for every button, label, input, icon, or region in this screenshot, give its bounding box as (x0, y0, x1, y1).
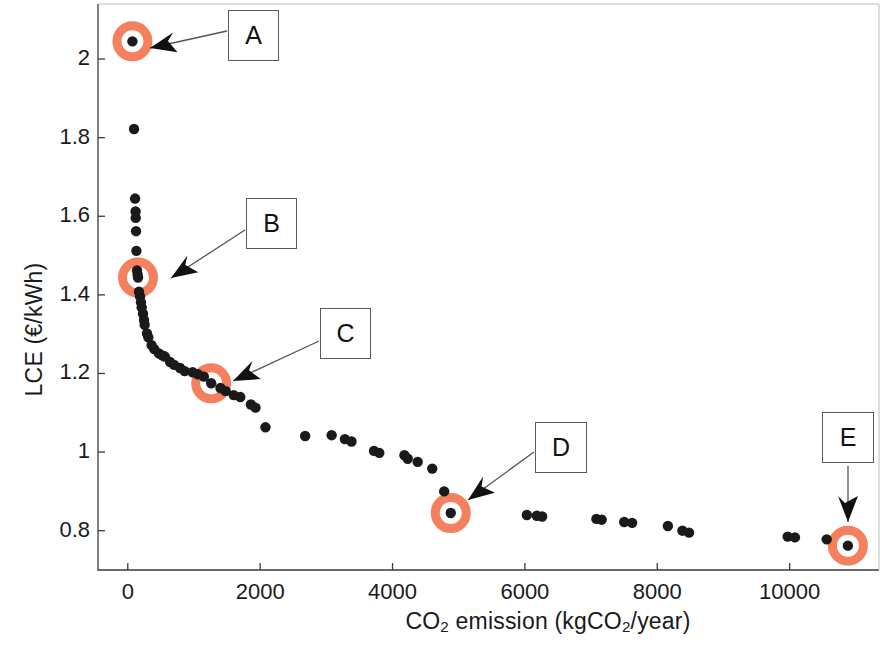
x-title-sub2: 2 (622, 618, 631, 635)
x-tick-label: 10000 (759, 579, 820, 605)
annotation-box-c: C (320, 308, 371, 359)
y-tick-label: 2 (36, 45, 90, 71)
annotation-box-d: D (535, 422, 587, 473)
x-tick-label: 4000 (368, 579, 417, 605)
x-title-pre: CO (405, 608, 440, 634)
x-title-mid: emission (kgCO (449, 608, 622, 634)
annotation-box-e: E (822, 412, 874, 463)
annotation-box-b: B (246, 198, 297, 249)
x-title-post: /year) (631, 608, 691, 634)
x-tick-label: 2000 (236, 579, 285, 605)
annotation-box-a: A (228, 10, 279, 61)
figure-background (0, 0, 880, 653)
y-axis-title: LCE (€/kWh) (21, 120, 48, 540)
x-tick-label: 6000 (500, 579, 549, 605)
x-title-sub1: 2 (440, 618, 449, 635)
scatter-plot-figure (0, 0, 880, 653)
x-tick-label: 8000 (633, 579, 682, 605)
x-axis-title: CO2 emission (kgCO2/year) (0, 608, 880, 635)
x-tick-label: 0 (122, 579, 134, 605)
